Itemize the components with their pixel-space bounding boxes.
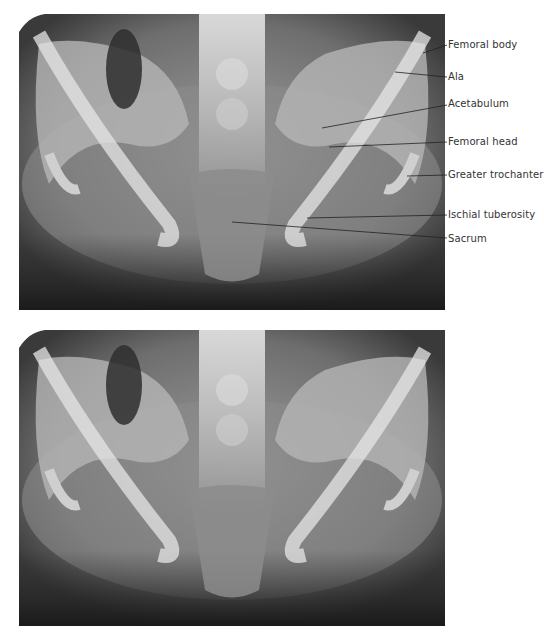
label-ala: Ala <box>448 71 464 83</box>
label-femoral-body: Femoral body <box>448 39 517 51</box>
label-ischial-tuberosity: Ischial tuberosity <box>448 209 535 221</box>
pelvis-xray-image <box>19 330 445 626</box>
label-greater-trochanter: Greater trochanter <box>448 169 544 181</box>
label-femoral-head: Femoral head <box>448 136 518 148</box>
radiograph-unlabeled <box>19 330 445 626</box>
pelvis-xray-image <box>19 14 445 310</box>
label-sacrum: Sacrum <box>448 233 487 245</box>
label-acetabulum: Acetabulum <box>448 98 509 110</box>
radiograph-labeled <box>19 14 445 310</box>
